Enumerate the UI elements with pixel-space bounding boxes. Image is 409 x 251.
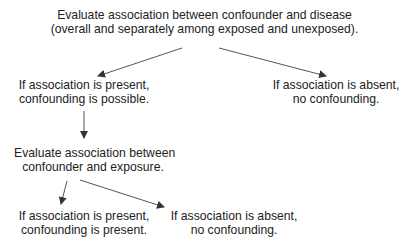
node-present-possible-line1: If association is present,	[14, 78, 154, 92]
node-present-possible: If association is present, confounding i…	[14, 78, 154, 106]
node-present-possible-line2: confounding is possible.	[14, 92, 154, 106]
node-absent-1-line2: no confounding.	[270, 92, 402, 106]
node-evaluate-exposure-line1: Evaluate association between	[14, 146, 172, 160]
node-present-confounding-line1: If association is present,	[14, 209, 154, 223]
node-absent-2-line1: If association is absent,	[168, 209, 300, 223]
node-present-confounding: If association is present, confounding i…	[14, 209, 154, 237]
node-present-confounding-line2: confounding is present.	[14, 223, 154, 237]
node-absent-no-confounding-1: If association is absent, no confounding…	[270, 78, 402, 106]
arrow-root-to-absent	[219, 48, 326, 76]
node-evaluate-exposure: Evaluate association between confounder …	[14, 146, 172, 174]
node-root-line1: Evaluate association between confounder …	[0, 8, 409, 22]
arrow-evaluate-to-absent	[80, 180, 164, 207]
node-root: Evaluate association between confounder …	[0, 8, 409, 36]
node-absent-no-confounding-2: If association is absent, no confounding…	[168, 209, 300, 237]
arrow-root-to-present	[98, 48, 182, 76]
node-absent-2-line2: no confounding.	[168, 223, 300, 237]
node-absent-1-line1: If association is absent,	[270, 78, 402, 92]
node-root-line2: (overall and separately among exposed an…	[0, 22, 409, 36]
arrow-evaluate-to-present	[61, 181, 67, 204]
node-evaluate-exposure-line2: confounder and exposure.	[14, 160, 172, 174]
